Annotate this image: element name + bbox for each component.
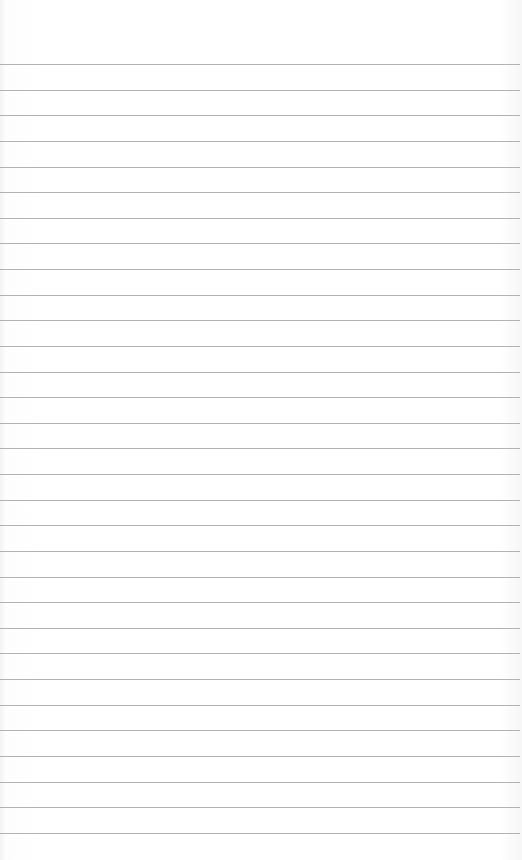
ruled-line	[0, 320, 520, 321]
ruled-line	[0, 295, 520, 296]
ruled-line	[0, 653, 520, 654]
ruled-line	[0, 218, 520, 219]
ruled-line	[0, 782, 520, 783]
ruled-line	[0, 679, 520, 680]
ruled-line	[0, 756, 520, 757]
ruled-line	[0, 372, 520, 373]
ruled-line	[0, 141, 520, 142]
ruled-line	[0, 551, 520, 552]
ruled-line	[0, 525, 520, 526]
ruled-line	[0, 192, 520, 193]
ruled-line	[0, 628, 520, 629]
ruled-line	[0, 115, 520, 116]
ruled-line	[0, 833, 520, 834]
ruled-line	[0, 500, 520, 501]
ruled-line	[0, 474, 520, 475]
ruled-line	[0, 730, 520, 731]
ruled-line	[0, 423, 520, 424]
ruled-line	[0, 90, 520, 91]
ruled-line	[0, 243, 520, 244]
ruled-line	[0, 397, 520, 398]
ruled-line	[0, 602, 520, 603]
ruled-line	[0, 448, 520, 449]
ruled-line	[0, 167, 520, 168]
ruled-line	[0, 346, 520, 347]
lined-paper-sheet	[0, 0, 522, 860]
ruled-line	[0, 577, 520, 578]
ruled-line	[0, 705, 520, 706]
ruled-line	[0, 64, 520, 65]
ruled-line	[0, 269, 520, 270]
ruled-line	[0, 807, 520, 808]
